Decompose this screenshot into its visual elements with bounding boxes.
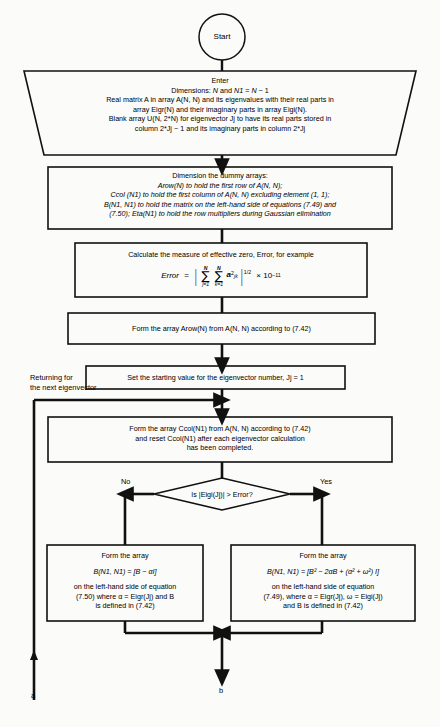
error-formula-close-bracket: | — [241, 271, 243, 281]
decision-node-text: Is |Eigi(Jj)| > Error? — [162, 490, 282, 500]
error-formula-sum-2: N ∑ k=1 — [213, 266, 224, 288]
enter-line-6: column 2*Jj − 1 and its imaginary parts … — [30, 124, 410, 134]
ccol-node-text: Form the array Ccol(N1) from A(N, N) acc… — [52, 424, 388, 453]
feedback-arrowhead-up — [30, 650, 38, 660]
error-formula-term: a2jk — [227, 270, 238, 281]
startvalue-node-text: Set the starting value for the eigenvect… — [90, 373, 341, 383]
dimension-line-5: (7.50); Eta(N1) to hold the row multipli… — [52, 209, 388, 219]
sum1-sigma-glyph: ∑ — [200, 271, 211, 282]
right-result-line-5: and B is defined in (7.42) — [234, 601, 412, 611]
returning-label-line-1: Returning for — [30, 373, 97, 383]
error-formula-exponent: 1/2 — [244, 269, 251, 275]
flowchart-page: Start Enter Dimensions: N and N1 = N − 1… — [0, 0, 440, 727]
enter-line2-a: Dimensions: — [171, 86, 213, 95]
enter-line-1: Enter — [30, 76, 410, 86]
error-formula-lhs: Error — [161, 271, 179, 282]
error-line-1: Calculate the measure of effective zero,… — [79, 250, 363, 260]
error-formula-open-bracket: | — [195, 271, 197, 281]
sum2-sigma-glyph: ∑ — [213, 271, 224, 282]
returning-label: Returning for the next eigenvector — [30, 373, 97, 393]
right-result-line-1: Form the array — [234, 551, 412, 561]
enter-line-5: Blank array U(N, 2*N) for eigenvector Jj… — [30, 114, 410, 124]
left-result-node-text: Form the array B(N1, N1) = [B − αI] on t… — [50, 551, 200, 611]
arow-node-text: Form the array Arow(N) from A(N, N) acco… — [72, 324, 371, 334]
dimension-line-4: B(N1, N1) to hold the matrix on the left… — [52, 200, 388, 210]
ccol-line-2: and reset Ccol(N1) after each eigenvecto… — [52, 434, 388, 444]
left-result-line-5: is defined in (7.42) — [50, 601, 200, 611]
enter-line2-c: and — [218, 86, 234, 95]
right-result-formula: B(N1, N1) = [B² − 2αB + (α² + ω²) I] — [234, 567, 412, 577]
dimension-line-3: Ccol (N1) to hold the first column of A(… — [52, 190, 388, 200]
returning-label-line-2: the next eigenvector — [30, 383, 97, 393]
right-result-line-4: (7.49), where α = Eigr(Jj), ω = Eigi(Jj) — [234, 592, 412, 602]
ccol-line-1: Form the array Ccol(N1) from A(N, N) acc… — [52, 424, 388, 434]
error-term-sub: jk — [234, 274, 238, 280]
enter-line2-d: N1 — [234, 86, 243, 95]
sum2-lower: k=1 — [213, 282, 224, 288]
enter-line-3: Real matrix A in array A(N, N) and its e… — [30, 95, 410, 105]
enter-node-text: Enter Dimensions: N and N1 = N − 1 Real … — [30, 76, 410, 133]
enter-line-4: array Eigr(N) and their imaginary parts … — [30, 105, 410, 115]
left-result-line-3: on the left-hand side of equation — [50, 582, 200, 592]
error-formula-power: −11 — [272, 271, 281, 277]
right-result-line-3: on the left-hand side of equation — [234, 582, 412, 592]
error-formula-times: × 10 — [256, 271, 272, 282]
decision-no-label: No — [121, 477, 130, 486]
left-result-line-4: (7.50) where α = Eigr(Jj) and B — [50, 592, 200, 602]
left-result-line-1: Form the array — [50, 551, 200, 561]
start-node-label: Start — [190, 32, 254, 43]
decision-yes-label: Yes — [320, 477, 332, 486]
error-formula: Error = | N ∑ j=1 N ∑ k=1 a2jk |1/2 × 10… — [161, 266, 281, 288]
left-result-formula: B(N1, N1) = [B − αI] — [50, 567, 200, 577]
dimension-node-text: Dimension the dummy arrays: Arow(N) to h… — [52, 171, 388, 219]
enter-line-2: Dimensions: N and N1 = N − 1 — [30, 86, 410, 96]
error-formula-eq: = — [184, 271, 189, 282]
connector-a-label: a — [31, 691, 35, 700]
error-node-text: Calculate the measure of effective zero,… — [79, 250, 363, 287]
right-result-node-text: Form the array B(N1, N1) = [B² − 2αB + (… — [234, 551, 412, 611]
ccol-line-3: has been completed. — [52, 443, 388, 453]
connector-b-label: b — [219, 686, 223, 695]
enter-line2-g: − 1 — [257, 86, 269, 95]
error-formula-sum-1: N ∑ j=1 — [200, 266, 211, 288]
dimension-line-1: Dimension the dummy arrays: — [52, 171, 388, 181]
dimension-line-2: Arow(N) to hold the first row of A(N, N)… — [52, 181, 388, 191]
